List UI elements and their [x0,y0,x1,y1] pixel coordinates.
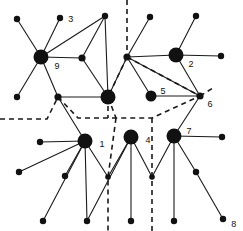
graph-node-label-8: 8 [231,219,236,229]
graph-node-2[interactable] [169,48,184,63]
graph-node[interactable] [149,174,155,180]
graph-node-8[interactable] [220,216,226,222]
graph-node-6[interactable] [196,92,203,99]
graph-node-9[interactable] [34,50,49,65]
graph-node[interactable] [218,53,224,59]
graph-node[interactable] [62,173,68,179]
dashed-boundary-layer [0,0,213,231]
graph-node[interactable] [101,90,116,105]
dashed-boundary-path [108,57,200,118]
graph-node-label-1: 1 [100,139,105,149]
graph-edge [82,16,105,58]
graph-edge [85,141,87,221]
graph-node[interactable] [147,14,153,20]
graph-node[interactable] [102,13,108,19]
dashed-boundary-path [0,97,58,119]
graph-node-5[interactable] [146,91,157,102]
graph-node[interactable] [16,169,22,175]
graph-node-label-9: 9 [55,61,60,71]
graph-node[interactable] [84,218,90,224]
graph-node-label-3: 3 [68,14,73,24]
graph-node[interactable] [193,13,199,19]
graph-edge [196,172,223,219]
graph-node[interactable] [14,16,20,22]
graph-edge [43,141,85,221]
graph-edge [127,17,150,57]
graph-node-7[interactable] [167,129,182,144]
graph-node[interactable] [123,53,130,60]
graph-node[interactable] [105,174,111,180]
node-label-layer: 921475638 [55,14,237,229]
graph-node-label-2: 2 [189,59,194,69]
graph-node-3[interactable] [57,15,63,21]
graph-node-label-6: 6 [208,99,213,109]
graph-node[interactable] [14,94,20,100]
graph-node-4[interactable] [124,130,139,145]
graph-node[interactable] [78,54,85,61]
graph-node[interactable] [40,218,46,224]
graph-node[interactable] [128,218,134,224]
graph-node[interactable] [193,169,199,175]
graph-node[interactable] [54,93,61,100]
graph-canvas: 921475638 [0,0,243,231]
graph-node-1[interactable] [78,134,93,149]
graph-node-label-5: 5 [161,86,166,96]
graph-edge [105,16,108,97]
graph-node-label-4: 4 [146,135,151,145]
graph-node-label-7: 7 [187,126,192,136]
graph-node[interactable] [171,218,177,224]
graph-node[interactable] [37,139,43,145]
graph-edge [58,97,85,141]
graph-node[interactable] [219,134,225,140]
graph-edge [19,141,85,172]
graph-figure: 921475638 [0,0,243,231]
